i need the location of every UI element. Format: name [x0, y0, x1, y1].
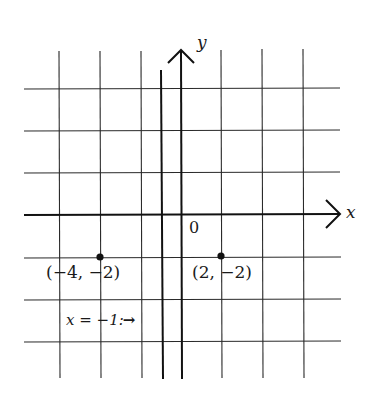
vertical-line-label: x = −1:→ [66, 313, 135, 328]
origin-label: 0 [189, 220, 199, 236]
point-label-2-minus2: (2, −2) [192, 264, 252, 281]
vertical-line-x-minus-1 [161, 70, 163, 379]
arrow-right-icon: → [123, 311, 136, 329]
coordinate-plane [0, 0, 374, 398]
point-2-minus2 [217, 252, 224, 259]
point-minus4-minus2 [96, 253, 103, 260]
equation-text: x = −1: [66, 311, 124, 329]
y-axis-label: y [197, 34, 207, 51]
point-label-minus4-minus2: (−4, −2) [46, 264, 120, 281]
x-axis-label: x [346, 204, 356, 221]
